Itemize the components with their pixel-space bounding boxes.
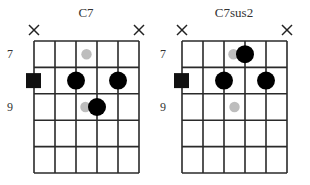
chord-diagram-c7: C7 79 xyxy=(7,5,144,173)
fret-number-label: 9 xyxy=(160,100,166,114)
finger-dot xyxy=(109,72,127,90)
finger-dot xyxy=(215,72,233,90)
muted-string-x-icon xyxy=(282,25,292,35)
muted-string-x-icon xyxy=(177,25,187,35)
ghost-note-dot xyxy=(81,49,91,59)
muted-string-x-icon xyxy=(29,25,39,35)
fret-number-label: 9 xyxy=(7,100,13,114)
muted-string-x-icon xyxy=(134,25,144,35)
chord-diagrams: C7 79 C7sus2 79 xyxy=(0,0,310,185)
finger-dot xyxy=(67,72,85,90)
ghost-note-dot xyxy=(229,102,239,112)
chord-title: C7 xyxy=(78,5,94,20)
finger-dot xyxy=(88,98,106,116)
root-note-square xyxy=(26,73,41,88)
fret-number-label: 7 xyxy=(7,47,13,61)
root-note-square xyxy=(174,73,189,88)
chord-title: C7sus2 xyxy=(215,5,253,20)
finger-dot xyxy=(257,72,275,90)
chord-diagram-c7sus2: C7sus2 79 xyxy=(160,5,292,173)
fret-number-label: 7 xyxy=(160,47,166,61)
finger-dot xyxy=(236,45,254,63)
